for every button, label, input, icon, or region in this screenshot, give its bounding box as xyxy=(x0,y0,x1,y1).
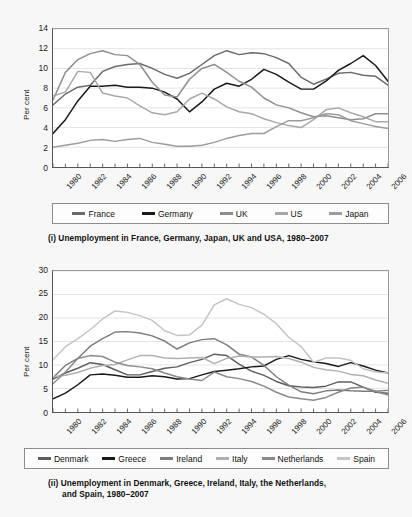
legend-swatch-icon xyxy=(262,457,275,459)
legend-item-greece[interactable]: Greece xyxy=(102,454,146,464)
x-tick-label: 1998 xyxy=(289,172,308,191)
legend-label: Japan xyxy=(345,209,368,219)
legend-label: Spain xyxy=(353,454,375,464)
series-line-us xyxy=(53,71,388,127)
y-tick-label: 6 xyxy=(26,104,48,113)
caption-line-2: and Spain, 1980–2007 xyxy=(48,489,398,500)
series-line-spain xyxy=(53,299,388,373)
legend-label: Greece xyxy=(118,454,146,464)
x-tick-label: 1992 xyxy=(214,417,233,436)
plot-lines-i xyxy=(53,29,388,167)
legend-label: Italy xyxy=(232,454,248,464)
x-tick-label: 1990 xyxy=(189,172,208,191)
x-tick-label: 1982 xyxy=(90,172,109,191)
series-line-germany xyxy=(53,56,388,134)
y-tick-label: 8 xyxy=(26,84,48,93)
x-tick-label: 1996 xyxy=(264,172,283,191)
legend-swatch-icon xyxy=(216,457,229,459)
legend-swatch-icon xyxy=(220,212,233,214)
y-tick-label: 5 xyxy=(26,385,48,394)
x-tick-label: 1980 xyxy=(65,417,84,436)
legend-item-denmark[interactable]: Denmark xyxy=(38,454,88,464)
legend-swatch-icon xyxy=(38,457,51,459)
x-tick-label: 1994 xyxy=(239,172,258,191)
plot-area-ii xyxy=(52,270,389,413)
series-line-japan xyxy=(53,114,388,148)
x-tick-label: 1984 xyxy=(115,417,134,436)
legend-swatch-icon xyxy=(329,212,342,214)
x-tick-label: 2000 xyxy=(314,172,333,191)
chart-panel-i: Per cent 02468101214 1980198219841986198… xyxy=(0,0,412,258)
y-tick-label: 4 xyxy=(26,124,48,133)
x-tick-label: 1986 xyxy=(140,417,159,436)
legend-item-japan[interactable]: Japan xyxy=(329,209,368,219)
caption-line-1: (ii) Unemployment in Denmark, Greece, Ir… xyxy=(48,478,326,488)
legend-label: UK xyxy=(236,209,248,219)
y-tick-label: 0 xyxy=(26,164,48,173)
series-line-italy xyxy=(53,356,388,384)
legend-swatch-icon xyxy=(72,212,85,214)
legend-item-uk[interactable]: UK xyxy=(220,209,248,219)
legend-label: France xyxy=(88,209,114,219)
legend-label: Netherlands xyxy=(278,454,324,464)
legend-i: FranceGermanyUKUSJapan xyxy=(52,203,389,224)
legend-item-spain[interactable]: Spain xyxy=(337,454,375,464)
series-line-netherlands xyxy=(53,356,388,401)
x-tick-label: 2000 xyxy=(314,417,333,436)
legend-swatch-icon xyxy=(275,212,288,214)
x-tick-label: 2004 xyxy=(364,172,383,191)
legend-item-us[interactable]: US xyxy=(275,209,303,219)
series-line-ireland xyxy=(53,332,388,394)
legend-label: Germany xyxy=(158,209,193,219)
legend-item-france[interactable]: France xyxy=(72,209,114,219)
x-tick-label: 1994 xyxy=(239,417,258,436)
legend-swatch-icon xyxy=(102,457,115,459)
legend-swatch-icon xyxy=(160,457,173,459)
legend-item-ireland[interactable]: Ireland xyxy=(160,454,202,464)
legend-label: Ireland xyxy=(176,454,202,464)
x-tick-label: 1996 xyxy=(264,417,283,436)
legend-swatch-icon xyxy=(142,212,155,214)
x-tick-label: 1990 xyxy=(189,417,208,436)
legend-ii: DenmarkGreeceIrelandItalyNetherlandsSpai… xyxy=(24,448,389,469)
x-tick-label: 2002 xyxy=(339,172,358,191)
x-tick-label: 1982 xyxy=(90,417,109,436)
y-tick-label: 10 xyxy=(26,64,48,73)
y-tick-label: 12 xyxy=(26,44,48,53)
y-tick-label: 2 xyxy=(26,144,48,153)
legend-label: US xyxy=(291,209,303,219)
y-tick-label: 15 xyxy=(26,337,48,346)
x-tick-label: 2002 xyxy=(339,417,358,436)
x-tick-label: 1984 xyxy=(115,172,134,191)
caption-i: (i) Unemployment in France, Germany, Jap… xyxy=(48,233,388,244)
legend-item-italy[interactable]: Italy xyxy=(216,454,248,464)
legend-item-netherlands[interactable]: Netherlands xyxy=(262,454,324,464)
legend-item-germany[interactable]: Germany xyxy=(142,209,193,219)
y-tick-label: 30 xyxy=(26,266,48,275)
legend-label: Denmark xyxy=(54,454,88,464)
y-tick-label: 0 xyxy=(26,409,48,418)
x-tick-label: 1980 xyxy=(65,172,84,191)
x-tick-label: 1992 xyxy=(214,172,233,191)
series-line-france xyxy=(53,51,388,105)
x-tick-label: 1998 xyxy=(289,417,308,436)
figure-page: Per cent 02468101214 1980198219841986198… xyxy=(0,0,412,517)
x-tick-label: 1988 xyxy=(165,417,184,436)
legend-swatch-icon xyxy=(337,457,350,459)
y-tick-label: 20 xyxy=(26,313,48,322)
caption-ii: (ii) Unemployment in Denmark, Greece, Ir… xyxy=(48,478,398,500)
y-tick-label: 14 xyxy=(26,24,48,33)
series-line-uk xyxy=(53,51,388,120)
x-tick-label: 2006 xyxy=(389,417,408,436)
x-tick-label: 1988 xyxy=(165,172,184,191)
plot-area-i xyxy=(52,28,389,168)
plot-lines-ii xyxy=(53,271,388,412)
y-tick-label: 10 xyxy=(26,361,48,370)
x-tick-label: 2006 xyxy=(389,172,408,191)
chart-panel-ii: Per cent 051015202530 198019821984198619… xyxy=(0,259,412,517)
y-tick-label: 25 xyxy=(26,289,48,298)
x-tick-label: 1986 xyxy=(140,172,159,191)
x-tick-label: 2004 xyxy=(364,417,383,436)
